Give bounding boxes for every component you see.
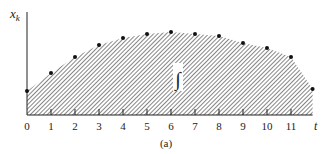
data-point bbox=[289, 55, 293, 59]
x-tick-label: 10 bbox=[262, 120, 274, 132]
data-point bbox=[193, 32, 197, 36]
hatched-area bbox=[27, 32, 313, 115]
chart-figure: 01234567891011 ∫ xk t (a) bbox=[0, 0, 331, 154]
integral-annotation: ∫ bbox=[173, 63, 183, 92]
x-tick-label: 9 bbox=[240, 120, 246, 132]
data-point bbox=[265, 46, 269, 50]
x-tick-label: 3 bbox=[96, 120, 102, 132]
data-point bbox=[145, 32, 149, 36]
x-tick-label: 1 bbox=[48, 120, 54, 132]
x-tick-label: 7 bbox=[192, 120, 198, 132]
x-tick-label: 6 bbox=[168, 120, 174, 132]
x-tick-label: 8 bbox=[216, 120, 222, 132]
y-axis-label: xk bbox=[9, 6, 21, 23]
data-point bbox=[169, 30, 173, 34]
figure-caption: (a) bbox=[160, 137, 173, 150]
data-point bbox=[217, 34, 221, 38]
x-tick-label: 5 bbox=[144, 120, 150, 132]
x-tick-label: 2 bbox=[72, 120, 78, 132]
x-tick-label: 0 bbox=[24, 120, 30, 132]
data-point bbox=[25, 89, 29, 93]
data-point bbox=[49, 71, 53, 75]
x-tick-label: 11 bbox=[286, 120, 297, 132]
data-point bbox=[121, 36, 125, 40]
data-point bbox=[241, 41, 245, 45]
data-point bbox=[311, 87, 315, 91]
x-tick-label: 4 bbox=[120, 120, 126, 132]
data-point bbox=[97, 43, 101, 47]
data-point bbox=[73, 55, 77, 59]
x-axis-label: t bbox=[314, 119, 318, 133]
